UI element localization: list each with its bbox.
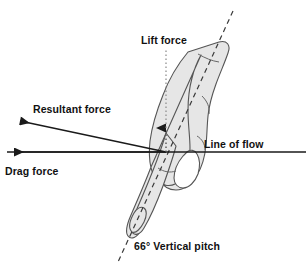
diagram-canvas: Lift force Resultant force Drag force Li… [0, 0, 307, 275]
resultant-force-label: Resultant force [33, 103, 111, 115]
resultant-force-vector [20, 121, 166, 152]
line-of-flow-label: Line of flow [204, 138, 264, 150]
vertical-pitch-label: 66° Vertical pitch [134, 240, 220, 252]
drag-force-label: Drag force [5, 165, 59, 177]
lift-force-label: Lift force [141, 34, 187, 46]
force-diagram: Lift force Resultant force Drag force Li… [0, 0, 307, 275]
